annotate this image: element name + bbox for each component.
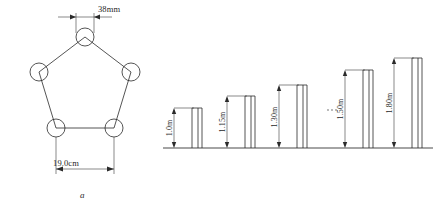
post-group: 1.30m <box>270 85 307 148</box>
pentagon-outline <box>39 37 131 128</box>
figure-sheet: 38mm 19.0cm a <box>0 0 436 216</box>
post-group: 1.50m <box>336 70 373 148</box>
post-group: 1.0m <box>165 108 202 148</box>
post-group: 1.80m <box>385 58 422 148</box>
pentagon-vertex-nodes <box>30 28 140 137</box>
panel-b-post-heights: 1.0m 1.15m <box>160 0 436 216</box>
panel-a-pentagon: 38mm 19.0cm a <box>0 0 170 216</box>
post-group: 1.15m <box>218 96 255 148</box>
post-height-label: 1.30m <box>270 106 279 127</box>
post-height-label: 1.80m <box>385 92 394 113</box>
post-height-label: 1.0m <box>165 119 174 136</box>
posts-drawing: 1.0m 1.15m <box>160 0 436 190</box>
dimension-bottom-width: 19.0cm <box>53 137 114 174</box>
post-height-label: 1.15m <box>218 111 227 132</box>
post-height-label: 1.50m <box>336 98 345 119</box>
dimension-label-top: 38mm <box>98 4 120 14</box>
pentagon-drawing: 38mm 19.0cm <box>0 0 170 190</box>
caption-panel-a: a <box>80 190 85 200</box>
dimension-label-bottom: 19.0cm <box>53 158 79 168</box>
